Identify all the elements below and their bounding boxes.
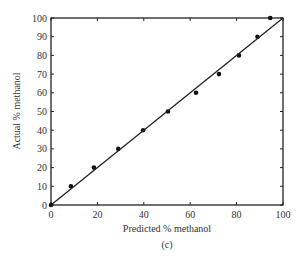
x-tick-label: 0 [49, 209, 54, 220]
x-tick-label: 60 [185, 209, 195, 220]
x-tick-label: 80 [232, 209, 242, 220]
x-axis-label: Predicted % methanol [123, 223, 212, 234]
x-tick-label: 20 [92, 209, 102, 220]
y-tick-label: 30 [37, 143, 47, 154]
y-tick-label: 100 [32, 13, 47, 24]
y-tick-label: 90 [37, 31, 47, 42]
y-tick-label: 20 [37, 162, 47, 173]
y-tick-label: 10 [37, 181, 47, 192]
y-tick-label: 40 [37, 125, 47, 136]
y-tick-label: 60 [37, 87, 47, 98]
ideal-fit-line [51, 18, 283, 205]
y-tick-label: 0 [42, 200, 47, 211]
data-point [268, 16, 273, 21]
y-tick-label: 70 [37, 69, 47, 80]
plot-area: 0204060801000102030405060708090100 [32, 13, 291, 221]
scatter-chart: 0204060801000102030405060708090100 Predi… [0, 0, 304, 264]
y-tick-label: 50 [37, 106, 47, 117]
x-tick-label: 40 [139, 209, 149, 220]
y-axis-label: Actual % methanol [11, 72, 22, 149]
data-point [194, 91, 199, 96]
data-point [217, 72, 222, 77]
x-tick-label: 100 [276, 209, 291, 220]
figure-caption: (c) [161, 239, 172, 251]
y-tick-label: 80 [37, 50, 47, 61]
